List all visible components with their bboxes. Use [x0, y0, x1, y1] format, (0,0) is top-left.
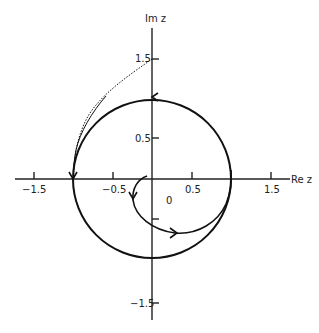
y-tick-label-neg1.5: −1.5 — [130, 298, 154, 309]
x-tick-label-neg0.5: −0.5 — [102, 184, 126, 195]
origin-label: 0 — [166, 195, 172, 206]
direction-arrows — [69, 93, 177, 238]
complex-plane-diagram: Im z Re z −1.5 −0.5 0.5 1.5 1.5 0.5 −1.5… — [0, 0, 319, 333]
y-tick-label-1.5: 1.5 — [135, 53, 151, 64]
x-axis-label: Re z — [291, 174, 312, 185]
y-axis-label: Im z — [145, 13, 166, 24]
x-tick-label-1.5: 1.5 — [264, 184, 280, 195]
x-tick-label-neg1.5: −1.5 — [22, 184, 46, 195]
dotted-tangent — [74, 59, 152, 172]
tangent-solid — [74, 96, 106, 178]
y-tick-label-0.5: 0.5 — [135, 133, 151, 144]
axes — [15, 28, 290, 320]
x-tick-label-0.5: 0.5 — [185, 184, 201, 195]
